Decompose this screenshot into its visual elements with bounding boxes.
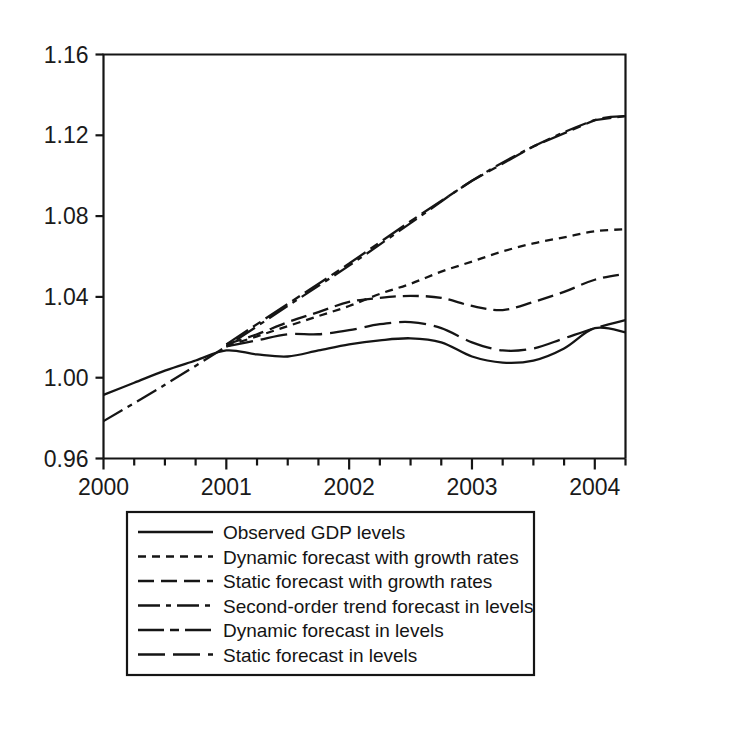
x-tick-label: 2004 bbox=[569, 474, 620, 500]
y-tick-label: 1.04 bbox=[44, 284, 89, 310]
y-tick-label: 1.16 bbox=[44, 42, 89, 68]
legend-label: Dynamic forecast with growth rates bbox=[223, 547, 519, 568]
gdp-forecast-line-chart: 0.961.001.041.081.121.16 200020012002200… bbox=[0, 0, 737, 730]
legend-label: Second-order trend forecast in levels bbox=[223, 596, 534, 617]
legend-label: Static forecast with growth rates bbox=[223, 571, 492, 592]
chart-legend: Observed GDP levelsDynamic forecast with… bbox=[127, 512, 534, 675]
x-tick-label: 2000 bbox=[78, 474, 129, 500]
y-tick-label: 0.96 bbox=[44, 446, 89, 472]
legend-label: Dynamic forecast in levels bbox=[223, 620, 444, 641]
y-tick-label: 1.12 bbox=[44, 122, 89, 148]
y-tick-label: 1.00 bbox=[44, 365, 89, 391]
x-tick-label: 2002 bbox=[324, 474, 375, 500]
y-tick-label: 1.08 bbox=[44, 203, 89, 229]
chart-figure: 0.961.001.041.081.121.16 200020012002200… bbox=[0, 0, 737, 730]
legend-label: Observed GDP levels bbox=[223, 522, 405, 543]
x-tick-label: 2001 bbox=[201, 474, 252, 500]
legend-label: Static forecast in levels bbox=[223, 645, 417, 666]
x-tick-label: 2003 bbox=[446, 474, 497, 500]
